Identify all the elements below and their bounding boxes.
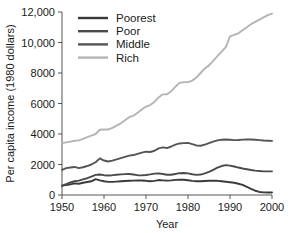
legend-label-poor: Poor xyxy=(116,25,140,37)
x-axis-title: Year xyxy=(156,218,179,230)
y-tick-label: 0 xyxy=(49,189,55,201)
x-tick-label: 1950 xyxy=(50,201,74,213)
data-lines-group xyxy=(62,14,272,193)
data-line-middle xyxy=(62,139,272,169)
x-tick-label: 1960 xyxy=(92,201,116,213)
legend-label-rich: Rich xyxy=(116,52,139,64)
x-tick-label: 1990 xyxy=(218,201,242,213)
data-line-poor xyxy=(62,165,272,185)
y-tick-label: 10,000 xyxy=(21,37,55,49)
x-tick-label: 2000 xyxy=(260,201,284,213)
x-tick-label: 1970 xyxy=(134,201,158,213)
legend-group: PoorestPoorMiddleRich xyxy=(78,12,156,64)
y-tick-label: 8000 xyxy=(31,67,55,79)
x-tick-label: 1980 xyxy=(176,201,200,213)
y-tick-label: 12,000 xyxy=(21,6,55,18)
data-line-poorest xyxy=(62,179,272,192)
y-tick-label: 6000 xyxy=(31,98,55,110)
legend-label-middle: Middle xyxy=(116,38,150,50)
legend-label-poorest: Poorest xyxy=(116,12,156,24)
y-tick-label: 2000 xyxy=(31,159,55,171)
income-line-chart: 0200040006000800010,00012,00019501960197… xyxy=(0,0,288,233)
data-line-rich xyxy=(62,14,272,144)
chart-figure: 0200040006000800010,00012,00019501960197… xyxy=(0,0,288,233)
axes-group xyxy=(58,12,272,199)
y-axis-title: Per capita income (1980 dollars) xyxy=(4,24,16,182)
y-tick-label: 4000 xyxy=(31,128,55,140)
